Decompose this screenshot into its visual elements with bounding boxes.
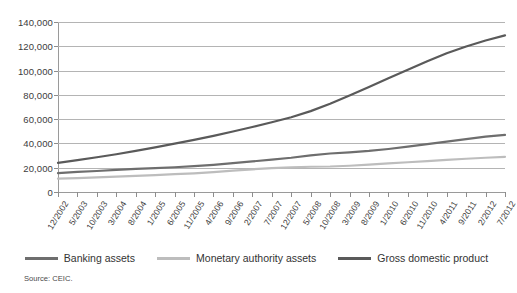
y-axis-tick-label: 0 — [48, 187, 53, 198]
x-axis-tick-mark — [175, 192, 176, 197]
y-axis-tick-label: 80,000 — [23, 89, 53, 100]
y-axis-tick-label: 20,000 — [23, 162, 53, 173]
x-axis-tick-mark — [291, 192, 292, 197]
legend-swatch-icon — [157, 257, 190, 260]
x-axis-tick-mark — [466, 192, 467, 197]
x-axis-tick-mark — [369, 192, 370, 197]
legend-swatch-icon — [25, 257, 58, 260]
x-axis-tick-mark — [388, 192, 389, 197]
x-axis-tick-label: 8/2004 — [125, 199, 148, 227]
x-axis-tick-mark — [58, 192, 59, 197]
x-axis-tick-label: 9/2006 — [223, 199, 246, 227]
x-axis-tick-mark — [213, 192, 214, 197]
chart-legend: Banking assetsMonetary authority assetsG… — [0, 252, 513, 264]
x-axis-tick-mark — [194, 192, 195, 197]
legend-swatch-icon — [338, 257, 371, 260]
x-axis-tick-mark — [233, 192, 234, 197]
x-axis-tick-mark — [427, 192, 428, 197]
x-axis-tick-label: 2/2012 — [475, 199, 498, 227]
x-axis-tick-mark — [136, 192, 137, 197]
x-axis-tick-mark — [505, 192, 506, 197]
y-axis-tick-label: 120,000 — [18, 41, 53, 52]
series-lines — [58, 22, 505, 192]
x-axis-tick-mark — [155, 192, 156, 197]
y-axis-tick-label: 40,000 — [23, 138, 53, 149]
legend-item[interactable]: Gross domestic product — [338, 252, 488, 264]
x-axis-tick-mark — [116, 192, 117, 197]
x-axis-tick-mark — [447, 192, 448, 197]
x-axis-tick-mark — [330, 192, 331, 197]
legend-label: Banking assets — [64, 252, 135, 264]
legend-item[interactable]: Banking assets — [25, 252, 135, 264]
legend-label: Gross domestic product — [377, 252, 488, 264]
y-axis-tick-label: 60,000 — [23, 114, 53, 125]
x-axis-tick-label: 4/2011 — [437, 199, 459, 227]
y-axis-tick-label: 140,000 — [18, 17, 53, 28]
y-axis-tick-label: 100,000 — [18, 65, 53, 76]
series-line — [58, 157, 505, 179]
x-axis-tick-label: 4/2006 — [203, 199, 226, 227]
x-axis-tick-mark — [350, 192, 351, 197]
x-axis-line — [58, 192, 505, 193]
x-axis-tick-mark — [97, 192, 98, 197]
x-axis-tick-label: 9/2011 — [456, 199, 478, 227]
x-axis-tick-mark — [252, 192, 253, 197]
x-axis-tick-mark — [486, 192, 487, 197]
source-note: Source: CEIC. — [24, 274, 73, 283]
legend-label: Monetary authority assets — [196, 252, 316, 264]
y-axis-tick-labels: 020,00040,00060,00080,000100,000120,0001… — [0, 0, 53, 293]
x-axis-tick-mark — [408, 192, 409, 197]
x-axis-tick-mark — [272, 192, 273, 197]
x-axis-tick-mark — [311, 192, 312, 197]
x-axis-tick-label: 1/2010 — [378, 199, 401, 227]
legend-item[interactable]: Monetary authority assets — [157, 252, 316, 264]
x-axis-tick-mark — [77, 192, 78, 197]
